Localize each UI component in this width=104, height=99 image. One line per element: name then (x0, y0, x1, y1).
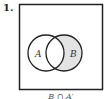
circle-a-label: A (34, 49, 42, 59)
diagram-caption: B ∩ A′ (0, 92, 104, 99)
circle-b-label: B (69, 49, 77, 59)
venn-diagram: A B (0, 0, 104, 99)
